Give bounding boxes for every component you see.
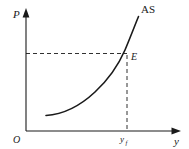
equilibrium-point-label: E [130,51,137,62]
origin-label: O [13,134,20,145]
x-tick-yf: y f [119,134,129,146]
x-tick-yf-subscript: f [126,139,129,146]
vertical-axis-arrow-icon [23,8,30,18]
axis-label-output: y [173,135,179,147]
curve-label-as: AS [141,3,155,15]
as-curve-figure: P y O AS E y f [0,0,189,149]
vertical-axis [23,8,30,131]
axis-label-price: P [12,8,20,20]
horizontal-axis-arrow-icon [172,128,182,135]
aggregate-supply-curve [46,17,139,116]
horizontal-axis [26,128,181,135]
x-tick-yf-main: y [119,134,124,144]
figure-canvas: P y O AS E y f [0,0,189,149]
